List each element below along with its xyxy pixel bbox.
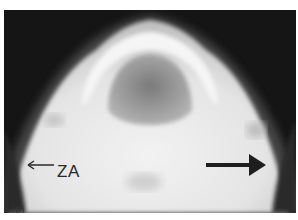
xray-image: ZA (b) (4, 10, 296, 213)
panel-label: (b) (12, 204, 24, 213)
xray-illustration (4, 10, 296, 213)
za-label: ZA (57, 162, 80, 182)
